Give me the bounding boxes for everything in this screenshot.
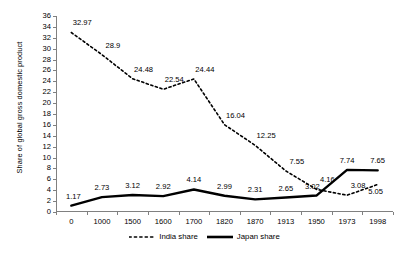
x-tick [56,212,57,215]
y-tick-label: 24 [43,78,51,86]
y-tick-label: 12 [43,143,51,151]
y-axis-title: Share of global gross domestic product [15,23,24,193]
y-tick-label: 10 [43,154,51,162]
india-data-label: 4.16 [320,176,335,184]
y-tick-label: 28 [43,56,51,64]
x-tick-label: 1820 [216,218,233,226]
legend-label-japan: Japan share [237,232,280,241]
chart-legend: India share Japan share [0,232,409,241]
x-tick [240,212,241,215]
japan-data-label: 3.02 [305,183,320,191]
japan-data-label: 2.99 [217,183,232,191]
x-tick [362,212,363,215]
x-tick-label: 1700 [185,218,202,226]
india-data-label: 5.05 [368,188,383,196]
india-data-label: 12.25 [257,132,276,140]
y-tick-label: 14 [43,132,51,140]
japan-data-label: 7.74 [340,157,355,165]
x-tick [301,212,302,215]
x-tick-label: 1000 [94,218,111,226]
y-tick-label: 32 [43,34,51,42]
y-tick-label: 8 [47,165,51,173]
x-tick-label: 1998 [369,218,386,226]
y-tick-label: 2 [47,197,51,205]
y-tick-label: 20 [43,99,51,107]
india-data-label: 16.04 [226,112,245,120]
y-tick-label: 22 [43,88,51,96]
chart-container: Share of global gross domestic product 0… [0,0,409,257]
x-tick [270,212,271,215]
x-tick-label: 1500 [124,218,141,226]
x-tick [117,212,118,215]
x-tick [179,212,180,215]
japan-data-label: 2.73 [95,184,110,192]
india-dashed-swatch [129,234,155,240]
y-tick-label: 16 [43,121,51,129]
x-tick [87,212,88,215]
japan-solid-swatch [207,234,233,240]
india-data-label: 24.48 [134,66,153,74]
legend-item-japan: Japan share [207,232,280,241]
x-tick-label: 0 [69,218,73,226]
japan-data-label: 2.31 [248,186,263,194]
x-tick-label: 1950 [308,218,325,226]
india-data-label: 7.55 [289,158,304,166]
x-tick [148,212,149,215]
y-tick-label: 34 [43,23,51,31]
x-tick [209,212,210,215]
x-tick-label: 1870 [247,218,264,226]
japan-data-label: 2.92 [156,183,171,191]
y-tick-label: 26 [43,67,51,75]
x-tick-label: 1913 [277,218,294,226]
india-data-label: 3.08 [351,182,366,190]
y-tick-label: 36 [43,12,51,20]
y-tick-label: 18 [43,110,51,118]
legend-label-india: India share [159,232,198,241]
legend-item-india: India share [129,232,198,241]
plot-area: 024681012141618202224262830323436 010001… [56,16,393,212]
y-tick-label: 0 [47,208,51,216]
india-data-label: 32.97 [73,19,92,27]
japan-data-label: 7.65 [370,157,385,165]
x-tick-label: 1973 [339,218,356,226]
y-tick-label: 4 [47,186,51,194]
india-data-label: 22.54 [165,76,184,84]
india-data-label: 28.9 [106,42,121,50]
x-tick [393,212,394,215]
india-share-line [71,33,377,196]
x-tick-label: 1600 [155,218,172,226]
y-tick-label: 30 [43,45,51,53]
japan-data-label: 4.14 [186,176,201,184]
japan-data-label: 2.65 [278,185,293,193]
japan-data-label: 1.17 [66,193,81,201]
india-data-label: 24.44 [195,66,214,74]
x-tick [332,212,333,215]
y-tick-label: 6 [47,176,51,184]
japan-data-label: 3.12 [125,182,140,190]
